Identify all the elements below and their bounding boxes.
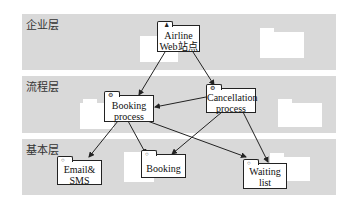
ghost-folder-tab bbox=[83, 99, 97, 104]
node-email-sms: ○ Email& SMS bbox=[57, 160, 102, 185]
layer-label-basic: 基本层 bbox=[26, 141, 59, 157]
ghost-folder bbox=[260, 32, 304, 58]
ghost-folder-tab bbox=[278, 99, 292, 104]
circle-icon: ○ bbox=[61, 157, 65, 163]
ghost-folder-tab bbox=[270, 153, 284, 158]
layer-label-enterprise: 企业层 bbox=[26, 16, 59, 32]
node-label-line2: list bbox=[244, 177, 286, 188]
node-label-line2: Web站点 bbox=[158, 41, 199, 52]
node-label-line2: process bbox=[105, 111, 153, 122]
node-label-line2: process bbox=[207, 103, 255, 114]
circle-icon: ○ bbox=[247, 160, 251, 166]
node-label-line1: Email& bbox=[58, 164, 101, 175]
layer-label-process: 流程层 bbox=[26, 78, 59, 94]
node-label-line1: Booking bbox=[105, 100, 153, 111]
gear-icon: ⚙ bbox=[210, 85, 215, 91]
node-airline-web: ♟ Airline Web站点 bbox=[157, 25, 200, 52]
ghost-folder-tab bbox=[260, 28, 274, 33]
circle-icon: ○ bbox=[145, 151, 149, 157]
ghost-folder bbox=[278, 103, 322, 127]
node-label-line1: Cancellation bbox=[207, 92, 255, 103]
node-cancellation-process: ⚙ Cancellation process bbox=[206, 88, 256, 113]
node-label-line1: Booking bbox=[142, 163, 185, 174]
gear-icon: ⚙ bbox=[108, 92, 113, 98]
node-waiting-list: ○ Waiting list bbox=[243, 163, 287, 189]
node-booking: ○ Booking bbox=[141, 154, 186, 178]
node-booking-process: ⚙ Booking process bbox=[104, 95, 154, 122]
person-icon: ♟ bbox=[164, 22, 169, 28]
node-label-line1: Airline bbox=[158, 30, 199, 41]
node-label-line1: Waiting bbox=[244, 166, 286, 177]
node-label-line2: SMS bbox=[58, 175, 101, 186]
